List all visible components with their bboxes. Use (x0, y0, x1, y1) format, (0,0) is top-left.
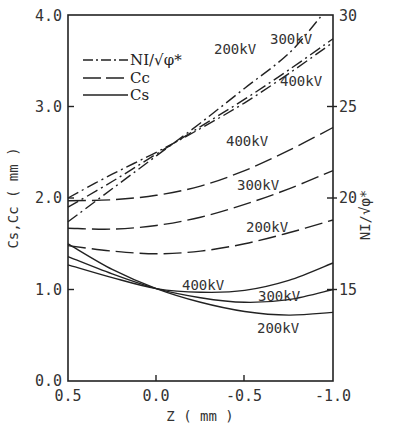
chart: 0.0 1.0 2.0 3.0 4.0 15 20 25 30 0.5 0.0 … (0, 0, 394, 429)
y-right-tick-label: 20 (339, 189, 357, 207)
y-axis-label-left: Cs,Cc ( mm ) (5, 147, 21, 248)
label-cs-200kv: 200kV (257, 320, 300, 336)
legend-label-cc: Cc (130, 69, 150, 87)
label-ni-300kv: 300kV (270, 31, 313, 47)
y-tick-label: 3.0 (35, 98, 62, 116)
label-cc-300kv: 300kV (237, 177, 280, 193)
label-cc-200kv: 200kV (246, 219, 289, 235)
y-right-tick-label: 25 (339, 98, 357, 116)
label-ni-400kv: 400kV (280, 73, 323, 89)
right-axis-ticks (327, 107, 337, 290)
y-tick-label: 2.0 (35, 189, 62, 207)
x-tick-label: -1.0 (315, 387, 351, 405)
bottom-axis-ticks (156, 375, 244, 381)
y-right-tick-label: 30 (339, 7, 357, 25)
y-tick-label: 1.0 (35, 281, 62, 299)
x-tick-label: 0.5 (54, 387, 81, 405)
x-tick-label: 0.0 (142, 387, 169, 405)
x-tick-label: -0.5 (226, 387, 262, 405)
y-axis-label-right: NI/√φ* (357, 190, 373, 241)
curves (68, 17, 333, 315)
legend-label-ni: NI/√φ* (130, 51, 182, 69)
y-tick-label: 4.0 (35, 7, 62, 25)
y-right-tick-label: 15 (339, 281, 357, 299)
x-axis-label: Z ( mm ) (166, 408, 233, 424)
label-ni-200kv: 200kV (214, 41, 257, 57)
label-cs-300kv: 300kV (258, 288, 301, 304)
label-cc-400kv: 400kV (226, 133, 269, 149)
legend-label-cs: Cs (130, 86, 149, 104)
curve-cc-200kv (68, 220, 333, 254)
curve-cc-400kv (68, 128, 333, 201)
curve-ni-400kv (68, 42, 333, 198)
legend: NI/√φ* Cc Cs (83, 51, 182, 104)
label-cs-400kv: 400kV (182, 277, 225, 293)
